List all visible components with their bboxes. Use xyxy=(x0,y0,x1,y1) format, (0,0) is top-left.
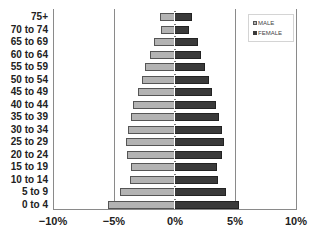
gridline xyxy=(296,9,297,210)
y-tick-mark xyxy=(174,86,176,87)
bar-female xyxy=(175,163,218,171)
bar-female xyxy=(175,151,222,159)
y-tick-mark xyxy=(174,99,176,100)
male-swatch-icon xyxy=(253,21,257,25)
gridline xyxy=(114,9,115,210)
bar-male xyxy=(150,51,174,59)
bar-female xyxy=(175,138,225,146)
bar-female xyxy=(175,101,216,109)
bar-female xyxy=(175,13,192,21)
y-tick-mark xyxy=(174,61,176,62)
bar-male xyxy=(131,163,175,171)
y-category-label: 55 to 59 xyxy=(0,61,48,73)
y-category-label: 45 to 49 xyxy=(0,86,48,98)
gridline xyxy=(235,9,236,210)
y-category-label: 35 to 39 xyxy=(0,111,48,123)
x-tick-label: −10% xyxy=(33,215,73,227)
y-category-label: 70 to 74 xyxy=(0,24,48,36)
legend-label-female: FEMALE xyxy=(258,30,282,36)
y-category-label: 50 to 54 xyxy=(0,74,48,86)
bar-male xyxy=(127,151,174,159)
x-tick-label: 0% xyxy=(155,215,195,227)
bar-male xyxy=(126,138,175,146)
y-tick-mark xyxy=(174,199,176,200)
bar-male xyxy=(108,201,175,209)
bar-female xyxy=(175,126,222,134)
legend-label-male: MALE xyxy=(258,20,274,26)
x-tick-label: −5% xyxy=(94,215,134,227)
bar-female xyxy=(175,201,239,209)
bar-male xyxy=(154,38,175,46)
bar-female xyxy=(175,113,220,121)
y-tick-mark xyxy=(174,11,176,12)
y-category-label: 75+ xyxy=(0,11,48,23)
legend-item-male: MALE xyxy=(253,20,274,27)
y-tick-mark xyxy=(174,24,176,25)
y-category-label: 0 to 4 xyxy=(0,199,48,211)
x-tick-label: 10% xyxy=(276,215,314,227)
bar-male xyxy=(161,26,174,34)
bar-female xyxy=(175,176,219,184)
y-tick-mark xyxy=(174,111,176,112)
x-axis-line xyxy=(53,209,297,210)
bar-male xyxy=(142,76,175,84)
y-category-label: 5 to 9 xyxy=(0,186,48,198)
y-category-label: 65 to 69 xyxy=(0,36,48,48)
bar-female xyxy=(175,26,190,34)
bar-female xyxy=(175,38,198,46)
y-tick-mark xyxy=(174,74,176,75)
y-category-label: 30 to 34 xyxy=(0,124,48,136)
bar-male xyxy=(130,176,175,184)
bar-male xyxy=(145,63,174,71)
legend-item-female: FEMALE xyxy=(253,30,282,37)
bar-male xyxy=(128,126,174,134)
gridline xyxy=(53,9,54,210)
population-pyramid-chart: −10%−5%0%5%10%75+70 to 7465 to 6960 to 6… xyxy=(0,0,314,236)
y-tick-mark xyxy=(174,49,176,50)
y-category-label: 25 to 29 xyxy=(0,136,48,148)
bar-female xyxy=(175,63,205,71)
y-tick-mark xyxy=(174,174,176,175)
legend: MALE FEMALE xyxy=(248,14,294,42)
female-swatch-icon xyxy=(253,31,257,35)
y-category-label: 40 to 44 xyxy=(0,99,48,111)
y-tick-mark xyxy=(174,136,176,137)
bar-male xyxy=(160,13,175,21)
y-tick-mark xyxy=(174,149,176,150)
bar-male xyxy=(131,113,175,121)
bar-male xyxy=(120,188,175,196)
y-tick-mark xyxy=(174,161,176,162)
bar-female xyxy=(175,76,209,84)
bar-female xyxy=(175,88,213,96)
bar-male xyxy=(133,101,174,109)
y-category-label: 15 to 19 xyxy=(0,161,48,173)
y-category-label: 60 to 64 xyxy=(0,49,48,61)
x-tick-label: 5% xyxy=(215,215,255,227)
y-category-label: 10 to 14 xyxy=(0,174,48,186)
bar-male xyxy=(138,88,174,96)
bar-female xyxy=(175,51,202,59)
y-tick-mark xyxy=(174,124,176,125)
y-tick-mark xyxy=(174,36,176,37)
y-tick-mark xyxy=(174,186,176,187)
y-category-label: 20 to 24 xyxy=(0,149,48,161)
bar-female xyxy=(175,188,226,196)
